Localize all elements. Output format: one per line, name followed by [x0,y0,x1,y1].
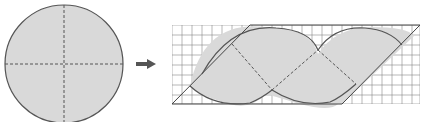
divided-circle [5,5,123,122]
arrow-right-icon [136,59,156,69]
circle-to-parallelogram-diagram [0,0,424,122]
rearranged-sectors [172,25,420,108]
